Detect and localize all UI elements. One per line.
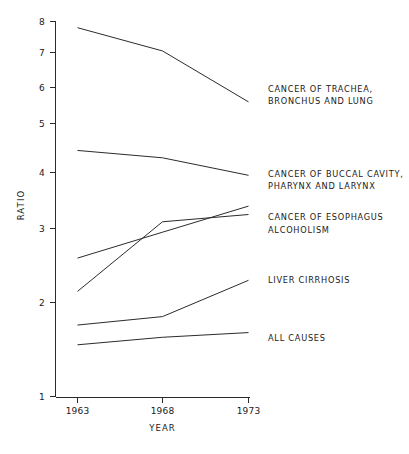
y-tick-label-4: 4 [39,168,45,178]
y-tick-label-8: 8 [39,17,45,27]
y-axis-title: RATIO [16,190,26,221]
line-chart: 8 7 6 5 4 3 2 1 RATIO 1963 1968 1973 YEA… [0,0,409,454]
series-line-0 [78,28,249,102]
series-label-trachea-line1: CANCER OF TRACHEA, [268,84,373,94]
x-tick-label-1963: 1963 [66,406,90,416]
series-line-5 [78,333,249,345]
y-tick-label-5: 5 [39,119,45,129]
x-tick-label-1973: 1973 [237,406,261,416]
series-label-all-causes: ALL CAUSES [268,333,326,343]
y-tick-label-6: 6 [39,83,45,93]
y-tick-label-2: 2 [39,298,45,308]
y-tick-label-7: 7 [39,48,45,58]
x-tick-label-1968: 1968 [151,406,175,416]
series-line-3 [78,215,249,292]
series-line-2 [78,206,249,258]
chart-container: 8 7 6 5 4 3 2 1 RATIO 1963 1968 1973 YEA… [0,0,409,454]
series-label-liver-cirrhosis: LIVER CIRRHOSIS [268,275,350,285]
series-line-1 [78,150,249,175]
series-label-trachea-line2: BRONCHUS AND LUNG [268,96,374,106]
series-label-buccal-line1: CANCER OF BUCCAL CAVITY, [268,169,404,179]
y-tick-marks [50,22,56,397]
y-tick-label-1: 1 [39,392,45,402]
series-label-buccal-line2: PHARYNX AND LARYNX [268,181,376,191]
series-line-4 [78,280,249,325]
series-label-alcoholism: ALCOHOLISM [268,225,330,235]
y-tick-label-3: 3 [39,224,45,234]
x-tick-marks [78,398,249,404]
series-layer [78,28,249,345]
x-axis-title: YEAR [148,423,176,433]
series-label-esophagus: CANCER OF ESOPHAGUS [268,212,384,222]
